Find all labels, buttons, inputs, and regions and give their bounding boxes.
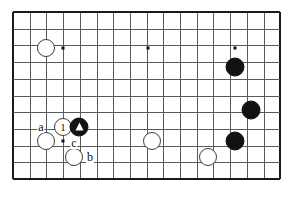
go-board-diagram: 1acb [0,0,290,203]
grid-line-horizontal [13,112,280,113]
black-stone-right-middle[interactable] [242,101,261,120]
star-point-lower-left-icon [62,140,65,143]
board-edge-horizontal [13,11,280,13]
black-stone-right-upper[interactable] [226,58,245,77]
grid-line-horizontal [13,129,280,130]
star-point-right-icon [234,47,237,50]
star-point-center-icon [147,47,150,50]
stone-move-number: 1 [60,122,66,133]
star-point-left-icon [62,47,65,50]
black-stone-marked-triangle[interactable] [70,118,89,137]
white-stone-bottom-left[interactable] [65,148,83,166]
grid-line-horizontal [13,96,280,97]
white-stone-left-lower[interactable] [37,132,55,150]
triangle-marker-icon [75,122,83,130]
grid-line-horizontal [13,162,280,163]
grid-line-horizontal [13,79,280,80]
point-label-a: a [37,121,44,133]
white-stone-bottom-right[interactable] [199,148,217,166]
go-board-surface[interactable]: 1acb [0,0,290,203]
white-stone-upper-left[interactable] [37,39,55,57]
grid-line-horizontal [13,29,280,30]
black-stone-right-lower[interactable] [226,132,245,151]
point-label-b: b [86,151,94,163]
point-label-c: c [70,137,77,149]
board-edge-horizontal [13,178,280,180]
white-stone-center-lower[interactable] [143,132,161,150]
